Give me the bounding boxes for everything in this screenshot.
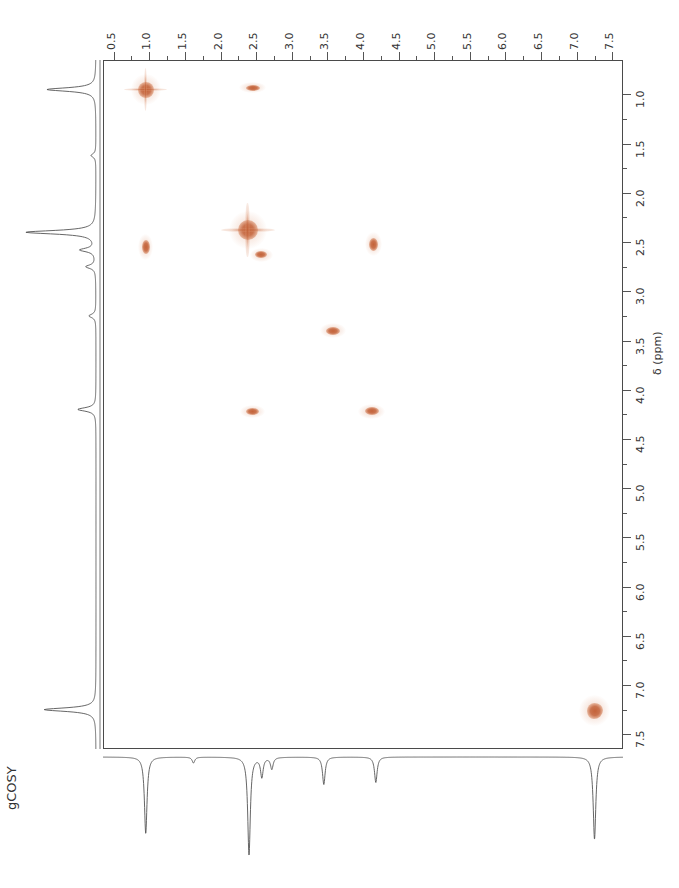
f1-tick-label: 4.5: [634, 435, 647, 453]
f2-tick-label: 2.5: [247, 33, 260, 51]
f2-projection-path: [103, 757, 623, 855]
f1-projection-trace: [0, 60, 103, 749]
experiment-name-label: gCOSY: [4, 766, 19, 810]
f2-tick-label: 0.5: [105, 33, 118, 51]
f1-axis-title: δ (ppm): [651, 332, 664, 376]
nmr-spectrum-page: 0.51.01.52.02.53.03.54.04.55.05.56.06.57…: [0, 0, 679, 888]
f2-tick: [238, 56, 239, 60]
f2-tick: [149, 52, 150, 60]
f2-tick-label: 3.5: [318, 33, 331, 51]
f2-tick: [381, 56, 382, 60]
f1-axis-right: 1.01.52.02.53.03.54.04.55.05.56.06.57.07…: [623, 60, 631, 749]
f2-projection-svg: [103, 749, 623, 859]
f2-tick-label: 7.5: [603, 33, 616, 51]
f2-tick: [595, 56, 596, 60]
f1-tick-label: 6.5: [634, 632, 647, 650]
f1-projection-svg: [0, 60, 103, 749]
f2-tick: [523, 56, 524, 60]
f2-tick: [221, 52, 222, 60]
f1-tick: [623, 464, 627, 465]
f1-tick: [623, 710, 627, 711]
f1-tick: [623, 341, 631, 342]
f2-projection-trace: [103, 749, 623, 859]
f1-tick: [623, 513, 627, 514]
f1-tick: [623, 365, 627, 366]
f2-tick: [185, 52, 186, 60]
f2-tick-label: 3.0: [283, 33, 296, 51]
f1-tick: [623, 193, 631, 194]
f1-tick-label: 5.0: [634, 485, 647, 503]
f2-tick-label: 6.5: [532, 33, 545, 51]
f2-tick-label: 1.5: [176, 33, 189, 51]
f2-axis-top: 0.51.01.52.02.53.03.54.04.55.05.56.06.57…: [103, 52, 623, 60]
f1-tick-label: 3.0: [634, 288, 647, 306]
f2-tick-label: 1.0: [140, 33, 153, 51]
f2-tick: [612, 52, 613, 60]
f1-tick-label: 6.0: [634, 583, 647, 601]
f2-tick: [399, 52, 400, 60]
f1-tick: [623, 390, 631, 391]
f1-tick: [623, 168, 627, 169]
f1-tick: [623, 537, 631, 538]
f1-tick-label: 5.5: [634, 534, 647, 552]
f2-tick: [131, 56, 132, 60]
f2-tick: [488, 56, 489, 60]
f2-tick: [452, 56, 453, 60]
f1-tick-label: 2.5: [634, 239, 647, 257]
f2-tick: [470, 52, 471, 60]
f1-tick: [623, 291, 631, 292]
f1-tick-label: 2.0: [634, 189, 647, 207]
f1-tick: [623, 734, 631, 735]
f2-tick-label: 4.5: [390, 33, 403, 51]
f1-tick: [623, 562, 627, 563]
f1-tick-label: 4.0: [634, 386, 647, 404]
f2-tick-label: 5.5: [461, 33, 474, 51]
f2-tick: [345, 56, 346, 60]
f1-tick-label: 1.0: [634, 91, 647, 109]
f2-tick: [203, 56, 204, 60]
f2-tick: [256, 52, 257, 60]
f1-tick: [623, 316, 627, 317]
f1-tick: [623, 267, 627, 268]
f1-tick: [623, 217, 627, 218]
f1-tick: [623, 414, 627, 415]
f1-tick: [623, 587, 631, 588]
f2-tick: [274, 56, 275, 60]
f2-tick: [167, 56, 168, 60]
f2-tick: [363, 52, 364, 60]
f2-tick: [541, 52, 542, 60]
f1-tick-label: 1.5: [634, 140, 647, 158]
spectrum-plot-area[interactable]: [103, 60, 623, 749]
f2-tick: [310, 56, 311, 60]
f1-tick: [623, 636, 631, 637]
f1-projection-path: [26, 60, 96, 749]
f2-tick-label: 2.0: [212, 33, 225, 51]
f2-tick: [577, 52, 578, 60]
f1-tick: [623, 685, 631, 686]
f2-tick-label: 4.0: [354, 33, 367, 51]
f1-tick: [623, 660, 627, 661]
f2-tick-label: 7.0: [568, 33, 581, 51]
f2-tick-label: 5.0: [425, 33, 438, 51]
f1-tick-label: 7.5: [634, 731, 647, 749]
f2-tick: [416, 56, 417, 60]
f1-tick: [623, 439, 631, 440]
f2-tick-label: 6.0: [496, 33, 509, 51]
f2-tick: [505, 52, 506, 60]
f2-tick: [559, 56, 560, 60]
f1-tick-label: 7.0: [634, 682, 647, 700]
f2-tick: [114, 52, 115, 60]
f2-tick: [327, 52, 328, 60]
f1-tick: [623, 144, 631, 145]
f1-tick-label: 3.5: [634, 337, 647, 355]
f1-tick: [623, 94, 631, 95]
f1-tick: [623, 242, 631, 243]
f2-tick: [292, 52, 293, 60]
f1-tick: [623, 488, 631, 489]
f2-tick: [434, 52, 435, 60]
f1-tick: [623, 611, 627, 612]
f1-tick: [623, 119, 627, 120]
